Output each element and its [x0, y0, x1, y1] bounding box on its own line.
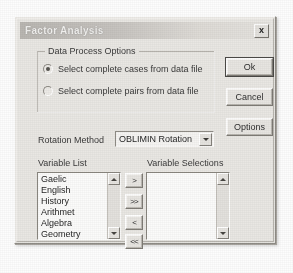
variable-selections-caption: Variable Selections	[147, 158, 223, 168]
add-variable-button[interactable]: >	[125, 173, 143, 188]
list-item[interactable]: History	[40, 196, 106, 207]
cancel-button[interactable]: Cancel	[226, 88, 273, 106]
list-item[interactable]: Arithmet	[40, 207, 106, 218]
dialog-inner-bevel: Factor Analysis x Data Process Options S…	[16, 18, 274, 242]
rotation-method-value: OBLIMIN Rotation	[119, 134, 199, 144]
variable-selections-box[interactable]	[146, 172, 230, 240]
add-all-variables-button[interactable]: >>	[125, 194, 143, 209]
chevron-down-icon[interactable]	[199, 133, 212, 146]
variable-list-caption: Variable List	[38, 158, 87, 168]
factor-analysis-dialog: Factor Analysis x Data Process Options S…	[14, 16, 276, 244]
list-item[interactable]: English	[40, 185, 106, 196]
radio-label-complete-cases: Select complete cases from data file	[58, 64, 203, 74]
options-button[interactable]: Options	[226, 118, 273, 136]
variable-list-scrollbar[interactable]	[107, 173, 120, 239]
variable-list-box[interactable]: Gaelic English History Arithmet Algebra …	[37, 172, 121, 240]
rotation-method-select[interactable]: OBLIMIN Rotation	[115, 131, 214, 147]
radio-icon-complete-cases[interactable]	[43, 64, 53, 74]
close-icon[interactable]: x	[254, 24, 269, 38]
radio-option-complete-cases[interactable]: Select complete cases from data file	[43, 64, 203, 74]
variable-selections-scrollbar[interactable]	[216, 173, 229, 239]
scroll-down-icon[interactable]	[108, 227, 120, 239]
data-process-options-group: Data Process Options Select complete cas…	[37, 51, 215, 113]
radio-option-complete-pairs[interactable]: Select complete pairs from data file	[43, 86, 199, 96]
scroll-up-icon[interactable]	[217, 173, 229, 185]
ok-button[interactable]: Ok	[226, 58, 273, 76]
list-item[interactable]: Geometry	[40, 229, 106, 240]
rotation-method-label: Rotation Method	[38, 135, 104, 145]
group-title: Data Process Options	[45, 46, 139, 56]
scroll-up-icon[interactable]	[108, 173, 120, 185]
window-title: Factor Analysis	[25, 25, 104, 36]
radio-label-complete-pairs: Select complete pairs from data file	[58, 86, 199, 96]
remove-all-variables-button[interactable]: <<	[125, 234, 143, 249]
radio-icon-complete-pairs[interactable]	[43, 86, 53, 96]
list-item[interactable]: Gaelic	[40, 174, 106, 185]
list-item[interactable]: Algebra	[40, 218, 106, 229]
remove-variable-button[interactable]: <	[125, 215, 143, 230]
title-bar[interactable]: Factor Analysis x	[20, 22, 270, 39]
variable-list-items: Gaelic English History Arithmet Algebra …	[40, 174, 106, 240]
scroll-down-icon[interactable]	[217, 227, 229, 239]
